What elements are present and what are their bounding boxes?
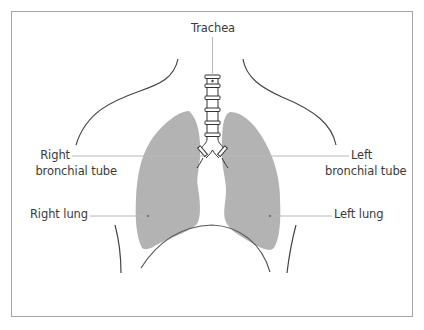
body-outline-left-side [115, 225, 121, 273]
left-lung-shape [222, 112, 280, 250]
right-lung-marker-dot [147, 215, 149, 217]
left-bronchial-label-line1: Left [351, 148, 372, 163]
left-lung-marker-dot [269, 215, 271, 217]
right-bronchial-label-line2: bronchial tube [10, 164, 117, 179]
left-bronchial-label-line2: bronchial tube [325, 164, 407, 179]
right-bronchial-label-line1: Right [20, 148, 70, 163]
body-outline-right-side [287, 225, 296, 273]
left-lung-label: Left lung [334, 207, 383, 222]
trachea-label: Trachea [187, 21, 239, 36]
right-lung-label: Right lung [20, 207, 88, 222]
